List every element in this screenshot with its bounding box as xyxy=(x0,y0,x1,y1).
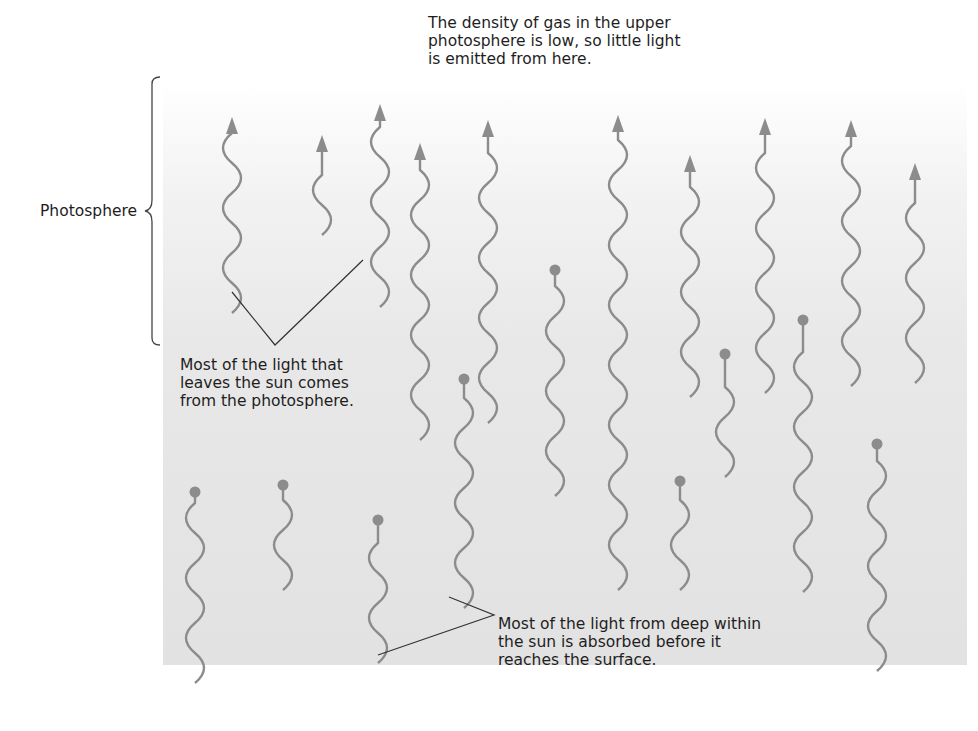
escaping-light-wave xyxy=(479,134,497,423)
arrowhead-icon xyxy=(845,120,857,137)
absorption-dot-icon xyxy=(872,439,883,450)
escaping-light-wave xyxy=(371,118,389,307)
deep-light-leader-line xyxy=(378,597,494,655)
escaping-light-wave xyxy=(756,132,774,393)
absorption-dot-icon xyxy=(190,487,201,498)
photosphere-label: Photosphere xyxy=(40,202,137,220)
escaping-light-wave xyxy=(223,131,241,313)
photosphere-brace xyxy=(145,77,160,345)
absorption-dot-icon xyxy=(373,515,384,526)
absorbed-light-wave xyxy=(794,324,812,592)
escaping-light-wave xyxy=(681,169,699,397)
escaping-light-wave xyxy=(906,177,924,383)
absorbed-light-wave xyxy=(455,383,473,608)
absorption-dot-icon xyxy=(459,374,470,385)
arrowhead-icon xyxy=(909,163,921,180)
absorbed-light-wave xyxy=(369,524,387,663)
absorption-dot-icon xyxy=(798,315,809,326)
arrowhead-icon xyxy=(316,135,328,152)
absorbed-light-wave xyxy=(274,489,292,590)
absorbed-light-wave xyxy=(546,274,564,496)
absorption-dot-icon xyxy=(550,265,561,276)
absorption-dot-icon xyxy=(675,476,686,487)
arrowhead-icon xyxy=(612,115,624,132)
arrowhead-icon xyxy=(414,143,426,160)
arrowhead-icon xyxy=(374,104,386,121)
absorption-dot-icon xyxy=(720,349,731,360)
absorbed-light-wave xyxy=(671,485,689,590)
escaping-light-wave xyxy=(411,157,429,440)
absorption-dot-icon xyxy=(278,480,289,491)
photosphere-leader-line xyxy=(232,260,363,345)
upper-photosphere-note: The density of gas in the upper photosph… xyxy=(428,14,680,68)
escaping-light-wave xyxy=(842,134,860,386)
photosphere-light-note: Most of the light that leaves the sun co… xyxy=(180,356,354,410)
absorbed-light-wave xyxy=(868,448,886,671)
arrowhead-icon xyxy=(759,118,771,135)
arrowhead-icon xyxy=(684,155,696,172)
absorbed-light-wave xyxy=(186,496,204,683)
light-paths-diagram xyxy=(0,0,978,731)
arrowhead-icon xyxy=(226,117,238,134)
absorbed-light-wave xyxy=(716,358,734,477)
escaping-light-wave xyxy=(313,149,331,235)
escaping-light-wave xyxy=(609,129,627,590)
arrowhead-icon xyxy=(482,120,494,137)
deep-light-absorbed-note: Most of the light from deep within the s… xyxy=(498,615,761,669)
